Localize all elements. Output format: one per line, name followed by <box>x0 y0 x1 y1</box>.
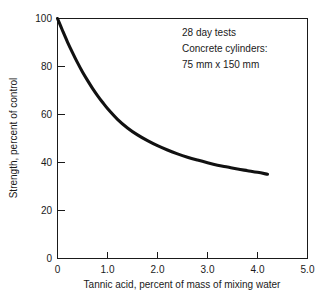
y-axis-title: Strength, percent of control <box>8 78 19 199</box>
x-tick-label-5: 5.0 <box>301 264 315 275</box>
data-series-line <box>58 19 268 175</box>
annotation-line-3: 75 mm x 150 mm <box>182 59 259 70</box>
y-tick-label-0: 0 <box>46 253 52 264</box>
annotation-line-1: 28 day tests <box>182 27 236 38</box>
x-tick-label-3: 3.0 <box>201 264 215 275</box>
y-tick-label-20: 20 <box>41 205 53 216</box>
chart-annotation: 28 day tests Concrete cylinders: 75 mm x… <box>182 27 268 70</box>
y-tick-label-60: 60 <box>41 109 53 120</box>
x-tick-label-4: 4.0 <box>251 264 265 275</box>
chart-container: 0 20 40 60 80 100 0 1.0 2.0 3.0 4.0 5.0 … <box>0 0 325 297</box>
y-tick-label-100: 100 <box>35 13 52 24</box>
chart-plot-svg: 0 20 40 60 80 100 0 1.0 2.0 3.0 4.0 5.0 … <box>0 0 325 297</box>
x-tick-label-1: 1.0 <box>101 264 115 275</box>
y-tick-label-80: 80 <box>41 61 53 72</box>
x-tick-label-2: 2.0 <box>151 264 165 275</box>
y-tick-label-40: 40 <box>41 157 53 168</box>
annotation-line-2: Concrete cylinders: <box>182 43 268 54</box>
x-axis-ticks <box>58 252 308 259</box>
y-axis-tick-labels: 0 20 40 60 80 100 <box>35 13 52 264</box>
x-tick-label-0: 0 <box>55 264 61 275</box>
x-axis-tick-labels: 0 1.0 2.0 3.0 4.0 5.0 <box>55 264 315 275</box>
x-axis-title: Tannic acid, percent of mass of mixing w… <box>84 279 281 290</box>
plot-frame <box>58 19 308 259</box>
y-axis-ticks <box>58 19 65 259</box>
